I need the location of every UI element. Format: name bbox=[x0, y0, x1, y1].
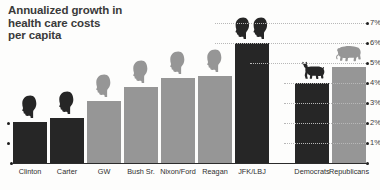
x-axis-label-republicans: Republicans bbox=[324, 167, 374, 176]
y-tick-dot-4% bbox=[366, 82, 369, 85]
y-tick-dot-2% bbox=[366, 122, 369, 125]
head-silhouette bbox=[57, 91, 78, 118]
gridline-2pct bbox=[284, 123, 366, 125]
head-silhouette bbox=[131, 60, 152, 87]
bar-carter bbox=[50, 118, 84, 163]
bar-gw bbox=[87, 101, 121, 163]
head-silhouette bbox=[205, 49, 226, 76]
bar-rect bbox=[124, 87, 158, 163]
head-silhouette bbox=[168, 51, 189, 78]
bar-clinton bbox=[13, 122, 47, 163]
y-tick-dot-6% bbox=[366, 42, 369, 45]
chart-container: Annualized growth in health care costs p… bbox=[0, 0, 380, 190]
bar-rect bbox=[332, 67, 366, 163]
gridline-5pct bbox=[250, 63, 366, 65]
y-tick-dot-5% bbox=[366, 62, 369, 65]
bar-nixon-ford bbox=[161, 78, 195, 163]
y-tick-label-6%: 6% bbox=[370, 38, 380, 47]
y-tick-dot-7% bbox=[366, 22, 369, 25]
x-axis-label-jfk-lbj: JFK/LBJ bbox=[227, 167, 277, 176]
bar-rect bbox=[87, 101, 121, 163]
y-tick-label-1%: 1% bbox=[370, 138, 380, 147]
gridline-1pct bbox=[284, 143, 366, 145]
y-tick-label-3%: 3% bbox=[370, 98, 380, 107]
head-silhouette bbox=[94, 74, 115, 101]
bar-rect bbox=[161, 78, 195, 163]
bar-rect bbox=[13, 122, 47, 163]
bar-rect bbox=[50, 118, 84, 163]
y-tick-label-4%: 4% bbox=[370, 78, 380, 87]
y-tick-label-7%: 7% bbox=[370, 18, 380, 27]
y-tick-label-2%: 2% bbox=[370, 118, 380, 127]
gridline-7pct bbox=[215, 23, 366, 25]
left-tick-dot-2pct bbox=[7, 122, 10, 125]
y-tick-label-5%: 5% bbox=[370, 58, 380, 67]
head-silhouette bbox=[20, 95, 41, 122]
bar-rect bbox=[198, 76, 232, 163]
gridline-6pct bbox=[215, 43, 366, 45]
gridline-3pct bbox=[284, 103, 366, 105]
gridline-4pct bbox=[284, 83, 366, 85]
x-axis-baseline bbox=[13, 163, 368, 164]
bar-bush-sr bbox=[124, 87, 158, 163]
bar-reagan bbox=[198, 76, 232, 163]
y-tick-dot-1% bbox=[366, 142, 369, 145]
bar-republicans bbox=[332, 67, 366, 163]
plot-area: 1%2%3%4%5%6%7% ClintonCarterGWBush Sr.Ni… bbox=[0, 0, 380, 190]
left-tick-dot-1pct bbox=[7, 142, 10, 145]
head-silhouette-pair bbox=[233, 17, 271, 43]
bar-jfk-lbj bbox=[235, 43, 269, 163]
bar-rect bbox=[235, 43, 269, 163]
y-tick-dot-3% bbox=[366, 102, 369, 105]
